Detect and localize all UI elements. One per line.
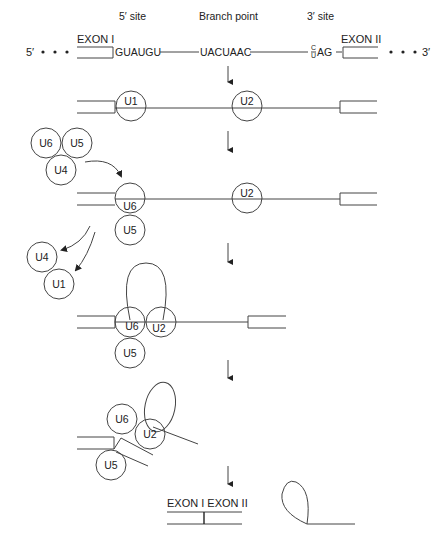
svg-text:U6: U6 [123, 200, 137, 212]
pre-mrna: 5′ EXON I GUAUGU UACUAAC C U AG EXON II … [26, 33, 430, 59]
lariat-intron [282, 481, 355, 524]
exon2-lines [248, 316, 286, 328]
curved-arrow-icon [85, 161, 121, 176]
svg-text:U6: U6 [125, 320, 139, 332]
exon2-box [343, 47, 378, 58]
svg-text:U2: U2 [240, 187, 254, 199]
dot [401, 50, 404, 53]
svg-text:U5: U5 [123, 347, 137, 359]
curved-arrow-icon [62, 226, 90, 250]
dot [53, 50, 56, 53]
five-site-sequence: GUAUGU [115, 46, 161, 58]
curved-arrow-icon [76, 232, 95, 270]
exon1-lines [77, 193, 115, 205]
step-3-complex: U6 U2 U5 [77, 263, 286, 368]
svg-text:U5: U5 [70, 137, 84, 149]
svg-text:U5: U5 [104, 459, 118, 471]
product-label: EXON I EXON II [167, 497, 248, 509]
three-site-u: U [311, 52, 316, 59]
exon1-box [77, 47, 113, 58]
three-site-c: C [311, 44, 316, 51]
svg-text:U2: U2 [240, 95, 254, 107]
u4-u5-u6-complex: U6 U5 U4 [31, 128, 92, 185]
svg-text:U1: U1 [124, 95, 138, 107]
dot [389, 50, 392, 53]
svg-text:U6: U6 [39, 137, 53, 149]
header-5-site: 5′ site [119, 10, 146, 22]
step-1-complex: U1 U2 [77, 91, 377, 121]
svg-text:U2: U2 [152, 322, 166, 334]
svg-text:U5: U5 [123, 224, 137, 236]
lariat-icon [282, 481, 355, 524]
intron-loop [126, 263, 166, 320]
released-u4-u1: U4 U1 [27, 242, 74, 299]
header-branch-point: Branch point [199, 10, 258, 22]
splicing-diagram: 5′ site Branch point 3′ site 5′ EXON I G… [0, 0, 443, 538]
five-prime-end: 5′ [26, 46, 34, 58]
exon1-lines [77, 437, 114, 449]
exon2-lines [340, 193, 377, 205]
exon1-lines [77, 316, 115, 328]
lariat-loop [140, 379, 180, 434]
dot [413, 50, 416, 53]
exon1-lines [77, 101, 115, 113]
svg-text:U4: U4 [54, 164, 68, 176]
svg-text:U4: U4 [35, 251, 49, 263]
dot [65, 50, 68, 53]
header-3-site: 3′ site [307, 10, 334, 22]
three-prime-end: 3′ [422, 46, 430, 58]
exon2-label: EXON II [341, 33, 381, 45]
branch-sequence: UACUAAC [200, 46, 252, 58]
step-4-complex: U6 U2 U5 [77, 379, 198, 480]
exon2-lines [340, 101, 377, 113]
three-site-ag: AG [317, 46, 332, 58]
dot [41, 50, 44, 53]
svg-text:U6: U6 [115, 413, 129, 425]
svg-text:U2: U2 [143, 428, 157, 440]
exon1-label: EXON I [77, 33, 114, 45]
step-2-complex: U6 U5 U2 [77, 183, 377, 245]
spliced-product: EXON I EXON II [167, 497, 248, 524]
exon2-strand [153, 427, 198, 444]
svg-text:U1: U1 [52, 278, 66, 290]
